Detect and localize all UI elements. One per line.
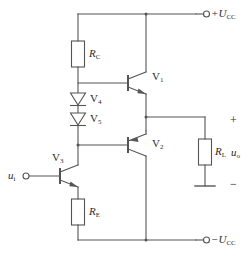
label-diode-v4: V4 (90, 93, 101, 106)
transistor-v1-collector-lead (128, 72, 146, 79)
label-resistor-rl: RL (215, 146, 226, 159)
label-transistor-v3: V3 (52, 152, 63, 165)
label-resistor-rc: RC (89, 48, 100, 61)
diode-v5-triangle (71, 113, 86, 125)
label-output-plus: + (230, 114, 237, 126)
terminal-minus-ucc (204, 237, 210, 243)
label-resistor-re: RE (89, 206, 100, 219)
transistor-v3-collector-lead (60, 165, 78, 172)
terminal-input (23, 173, 29, 179)
transistor-v2-collector-lead (128, 149, 146, 156)
terminal-plus-ucc (204, 11, 210, 17)
node-v2-base (77, 144, 80, 147)
resistor-rc-body (72, 41, 85, 67)
label-input-port: ui (8, 170, 15, 183)
resistor-re-body (72, 199, 85, 225)
node-top-rail (145, 13, 148, 16)
circuit-diagram-canvas: +UCC −UCC ui RC RE RL uo + − V4 V5 V1 V2… (0, 0, 245, 258)
label-diode-v5: V5 (90, 113, 101, 126)
label-transistor-v1: V1 (152, 71, 163, 84)
diode-v4-triangle (71, 93, 86, 105)
label-negative-supply: −UCC (211, 234, 236, 247)
transistor-v1-emitter-arrow (137, 89, 146, 94)
node-bottom-rail (145, 239, 148, 242)
label-positive-supply: +UCC (211, 8, 236, 21)
label-output-minus: − (230, 178, 237, 190)
label-output-port: uo (231, 147, 240, 160)
schematic-svg (0, 0, 245, 258)
label-transistor-v2: V2 (152, 138, 163, 151)
transistor-v3-emitter-arrow (69, 182, 78, 187)
resistor-rl-body (199, 139, 212, 165)
